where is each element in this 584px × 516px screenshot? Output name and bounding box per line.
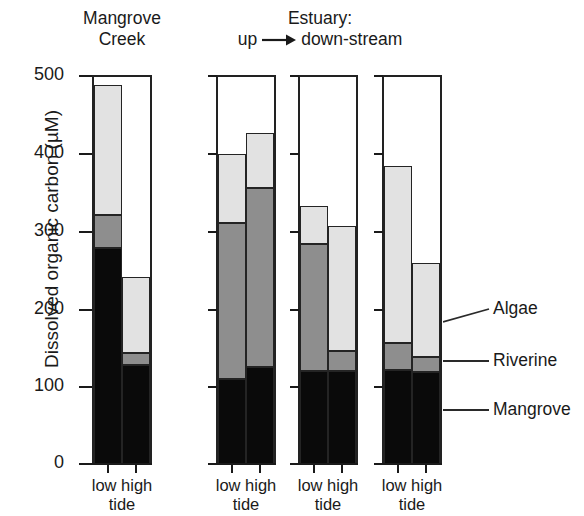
panel-1-label-high: high (121, 476, 152, 494)
panel-3-xtick-low (313, 463, 315, 473)
segment-algae-panel4-high[interactable] (412, 263, 440, 357)
segment-riverine-panel2-high[interactable] (246, 188, 274, 367)
segment-mangrove-panel1-high[interactable] (122, 365, 150, 464)
panel-3-label-high: high (327, 476, 358, 494)
panel-1-title: Mangrove Creek (72, 8, 172, 50)
panel-3-ytick-100 (290, 386, 299, 388)
panel-4-xtick-low (397, 463, 399, 473)
segment-algae-panel3-high[interactable] (328, 226, 356, 351)
panel-4-ytick-200 (374, 309, 383, 311)
segment-riverine-panel3-low[interactable] (300, 244, 328, 371)
panel-3-baseline (298, 463, 358, 465)
y-tick-label-0: 0 (8, 452, 64, 473)
upstream-label: up (238, 29, 257, 50)
panel-2-label-low: low (216, 476, 241, 494)
panel-3-ytick-500 (290, 75, 299, 77)
y-tick-mark-500 (79, 75, 93, 77)
chart-figure: Dissolved organic carbon (µM) 500 400 30… (0, 0, 584, 516)
panel-3-ytick-300 (290, 231, 299, 233)
y-tick-label-300: 300 (8, 220, 64, 241)
legend-label-mangrove: Mangrove (493, 399, 571, 420)
panel-4-xlabels: low high tide (362, 476, 462, 514)
panel-4-label-high: high (411, 476, 442, 494)
y-tick-mark-300 (79, 231, 93, 233)
bar-panel1-low[interactable] (94, 85, 122, 464)
panel-1-label-low: low (92, 476, 117, 494)
downstream-label: down-stream (301, 29, 402, 50)
y-tick-label-200: 200 (8, 298, 64, 319)
segment-mangrove-panel3-high[interactable] (328, 371, 356, 464)
panel-3-ytick-200 (290, 309, 299, 311)
arrow-right-icon (262, 33, 296, 47)
y-tick-mark-200 (79, 309, 93, 311)
bar-panel4-high[interactable] (412, 263, 440, 464)
segment-algae-panel2-high[interactable] (246, 133, 274, 188)
panel-3-xtick-high (341, 463, 343, 473)
panel-2-xtick-low (231, 463, 233, 473)
segment-mangrove-panel2-low[interactable] (218, 379, 246, 464)
segment-mangrove-panel3-low[interactable] (300, 371, 328, 464)
legend-label-riverine: Riverine (493, 350, 557, 371)
panel-4-ytick-100 (374, 386, 383, 388)
panel-3-label-low: low (298, 476, 323, 494)
segment-riverine-panel3-high[interactable] (328, 351, 356, 371)
y-tick-label-100: 100 (8, 375, 64, 396)
panel-2-title-line1: Estuary: (190, 8, 450, 29)
segment-algae-panel1-high[interactable] (122, 277, 150, 354)
bar-panel2-high[interactable] (246, 133, 274, 464)
panel-2-xtick-high (259, 463, 261, 473)
segment-riverine-panel4-high[interactable] (412, 357, 440, 373)
segment-riverine-panel1-high[interactable] (122, 353, 150, 365)
segment-algae-panel2-low[interactable] (218, 154, 246, 224)
panel-1-xtick-low (107, 463, 109, 473)
panel-2-ytick-500 (208, 75, 217, 77)
panel-2-ytick-100 (208, 386, 217, 388)
y-tick-mark-0 (79, 463, 93, 465)
bar-panel3-high[interactable] (328, 226, 356, 464)
panel-1-xlabels: low high tide (72, 476, 172, 514)
panel-3-ytick-400 (290, 153, 299, 155)
segment-mangrove-panel4-low[interactable] (384, 370, 412, 464)
panel-1-title-line1: Mangrove (72, 8, 172, 29)
panel-2-label-high: high (245, 476, 276, 494)
panel-4-ytick-400 (374, 153, 383, 155)
panel-1-title-line2: Creek (72, 29, 172, 50)
panel-1-label-tide: tide (72, 495, 172, 514)
segment-mangrove-panel4-high[interactable] (412, 372, 440, 464)
panel-2-ytick-200 (208, 309, 217, 311)
panel-2-ytick-300 (208, 231, 217, 233)
panel-4-baseline (382, 463, 442, 465)
segment-algae-panel1-low[interactable] (94, 85, 122, 215)
panel-4-ytick-500 (374, 75, 383, 77)
segment-algae-panel4-low[interactable] (384, 166, 412, 343)
bar-panel2-low[interactable] (218, 154, 246, 464)
y-tick-label-500: 500 (8, 64, 64, 85)
y-tick-label-400: 400 (8, 142, 64, 163)
panel-1-xtick-high (135, 463, 137, 473)
panel-2-baseline (216, 463, 276, 465)
panel-1-baseline (92, 463, 152, 465)
bar-panel3-low[interactable] (300, 206, 328, 464)
panel-4-ytick-300 (374, 231, 383, 233)
segment-algae-panel3-low[interactable] (300, 206, 328, 244)
segment-riverine-panel2-low[interactable] (218, 223, 246, 378)
segment-mangrove-panel2-high[interactable] (246, 367, 274, 464)
y-tick-mark-100 (79, 386, 93, 388)
segment-mangrove-panel1-low[interactable] (94, 248, 122, 464)
legend-label-algae: Algae (493, 298, 538, 319)
segment-riverine-panel1-low[interactable] (94, 215, 122, 248)
panel-4-label-low: low (382, 476, 407, 494)
y-tick-mark-400 (79, 153, 93, 155)
bar-panel4-low[interactable] (384, 166, 412, 464)
panel-4-xtick-high (425, 463, 427, 473)
segment-riverine-panel4-low[interactable] (384, 343, 412, 370)
panel-2-title: Estuary: up down-stream (190, 8, 450, 50)
panel-2-title-line2: up down-stream (190, 29, 450, 50)
bar-panel1-high[interactable] (122, 277, 150, 464)
panel-2-ytick-400 (208, 153, 217, 155)
panel-4-label-tide: tide (362, 495, 462, 514)
